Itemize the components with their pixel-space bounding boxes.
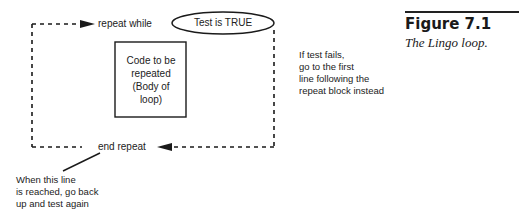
arrow-left-icon [157, 143, 172, 151]
body-line: repeated [131, 67, 170, 80]
loop-body-text: Code to be repeated (Body of loop) [115, 42, 187, 118]
return-note: When this line is reached, go back up an… [16, 174, 98, 210]
body-line: Code to be [127, 54, 176, 67]
condition-label: Test is TRUE [172, 17, 274, 29]
body-line: loop) [140, 93, 162, 106]
body-line: (Body of [132, 80, 169, 93]
pointer-line [63, 153, 100, 171]
fail-note: If test fails, go to the first line foll… [299, 49, 384, 97]
figure-caption: The Lingo loop. [405, 35, 488, 51]
note-line: line following the [299, 73, 384, 85]
note-line: go to the first [299, 61, 384, 73]
note-line: is reached, go back [16, 186, 98, 198]
figure-number: Figure 7.1 [405, 15, 491, 33]
note-line: repeat block instead [299, 85, 384, 97]
repeat-while-label: repeat while [98, 18, 152, 30]
arrow-right-icon [80, 20, 95, 28]
note-line: If test fails, [299, 49, 384, 61]
end-repeat-label: end repeat [98, 141, 146, 153]
caption-rule [405, 11, 519, 13]
note-line: When this line [16, 174, 98, 186]
note-line: up and test again [16, 198, 98, 210]
